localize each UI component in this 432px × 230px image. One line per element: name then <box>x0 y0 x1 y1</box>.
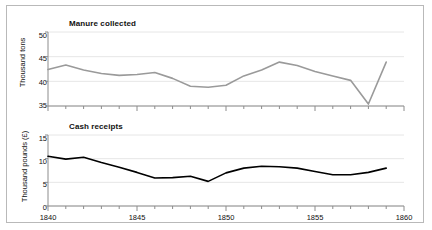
chart-panel-manure-collected: Manure collected Thousand tons 50 45 40 … <box>7 6 425 118</box>
plot-area-manure-collected <box>7 6 425 118</box>
chart-frame: Manure collected Thousand tons 50 45 40 … <box>6 5 424 223</box>
data-line-manure-collected <box>48 62 386 104</box>
plot-area-cash-receipts <box>7 114 425 222</box>
chart-panel-cash-receipts: Cash receipts Thousand pounds (£) 15 10 … <box>7 114 425 222</box>
data-line-cash-receipts <box>48 156 386 181</box>
